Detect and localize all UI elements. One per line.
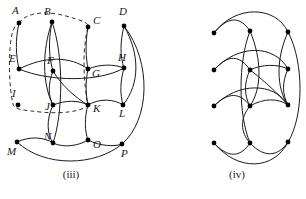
vertex-g[interactable] (212, 104, 217, 109)
vertex-A[interactable] (17, 21, 22, 26)
vertex-B[interactable] (50, 20, 55, 25)
vertex-C[interactable] (86, 25, 91, 30)
vertex-K[interactable] (86, 103, 91, 108)
edge-F-K (53, 71, 88, 105)
vertex-G[interactable] (86, 67, 91, 72)
edge-j-l (214, 142, 288, 164)
edge-K-O (85, 105, 88, 140)
vertex-l[interactable] (286, 140, 291, 145)
graph-panel-iii: ABCDEFGHIJKLMNOP (0, 0, 155, 170)
graph-panel-iv (151, 0, 306, 170)
vertex-label-E: E (8, 52, 16, 64)
vertex-label-H: H (117, 51, 127, 63)
graph-iii-edges (16, 22, 144, 161)
vertex-a[interactable] (212, 31, 217, 36)
edge-h-k (243, 106, 251, 143)
vertex-E[interactable] (17, 67, 22, 72)
caption-iv: (iv) (214, 168, 260, 180)
edge-N-O (53, 140, 88, 146)
vertex-O[interactable] (86, 138, 91, 143)
vertex-label-C: C (93, 14, 101, 26)
vertex-D[interactable] (122, 24, 127, 29)
vertex-F[interactable] (51, 69, 56, 74)
vertex-M[interactable] (15, 140, 20, 145)
vertex-label-O: O (93, 138, 101, 150)
graph-iv-vertices (212, 29, 291, 146)
vertex-d[interactable] (212, 68, 217, 73)
vertex-I[interactable] (16, 103, 21, 108)
edge-g-i (214, 88, 288, 106)
graph-iii-vertices: ABCDEFGHIJKLMNOP (6, 4, 128, 159)
vertex-label-N: N (43, 130, 52, 142)
caption-iii: (iii) (48, 168, 94, 180)
edge-C-G (86, 27, 88, 69)
edge-G-K (86, 69, 88, 105)
edge-h-i (250, 100, 288, 106)
vertex-label-L: L (118, 107, 125, 119)
edge-B-N (52, 22, 61, 143)
vertex-label-I: I (11, 87, 17, 99)
vertex-P[interactable] (120, 142, 125, 147)
edge-A-E (16, 23, 19, 69)
vertex-label-P: P (120, 147, 128, 159)
vertex-label-K: K (92, 102, 101, 114)
vertex-J[interactable] (51, 103, 56, 108)
vertex-label-A: A (11, 4, 19, 16)
edge-H-L (121, 68, 124, 105)
vertex-b[interactable] (248, 29, 253, 34)
vertex-f[interactable] (286, 67, 291, 72)
vertex-k[interactable] (248, 141, 253, 146)
vertex-c[interactable] (286, 30, 291, 35)
edge-E-H (19, 68, 124, 79)
vertex-H[interactable] (122, 66, 127, 71)
vertex-j[interactable] (212, 141, 217, 146)
vertex-label-J: J (45, 100, 51, 112)
vertex-label-B: B (44, 5, 51, 17)
edge-k-l (250, 142, 288, 154)
vertex-i[interactable] (286, 103, 291, 108)
graph-iv-svg (151, 0, 306, 170)
edge-d-f (214, 50, 288, 70)
vertex-label-F: F (46, 54, 54, 66)
vertex-label-D: D (118, 5, 127, 17)
graph-iii-svg: ABCDEFGHIJKLMNOP (0, 0, 155, 170)
vertex-label-G: G (92, 67, 100, 79)
figure-canvas: ABCDEFGHIJKLMNOP (iii) (0, 0, 306, 199)
edge-D-L (123, 26, 136, 105)
vertex-label-M: M (6, 145, 17, 157)
vertex-h[interactable] (248, 104, 253, 109)
vertex-e[interactable] (248, 68, 253, 73)
edge-c-l (288, 32, 300, 142)
edge-e-f (250, 65, 288, 70)
